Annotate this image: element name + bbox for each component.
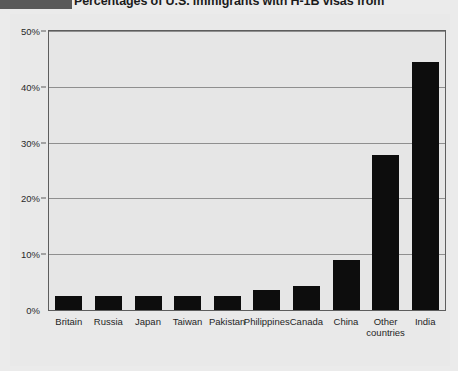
corner-artifact-block [0,0,72,9]
bar [412,62,439,310]
bars-layer [49,31,445,310]
bar [293,286,320,310]
y-axis-tick-30 [41,142,46,143]
y-axis-label-30: 30% [21,137,40,148]
y-axis: 0%10%20%30%40%50% [10,30,46,311]
bar [372,155,399,310]
y-axis-label-40: 40% [21,81,40,92]
bar [214,296,241,310]
y-axis-label-0: 0% [26,305,40,316]
y-axis-tick-40 [41,86,46,87]
bar [174,296,201,310]
x-axis-label: India [401,316,449,327]
y-axis-tick-50 [41,31,46,32]
y-axis-label-20: 20% [21,193,40,204]
page-title: Percentages of U.S. immigrants with H-1B… [74,0,458,9]
bar [135,296,162,310]
chart-card: 0%10%20%30%40%50% BritainRussiaJapanTaiw… [10,14,450,366]
bar [55,296,82,310]
y-axis-tick-20 [41,198,46,199]
chart-page: Percentages of U.S. immigrants with H-1B… [0,0,458,371]
x-axis: BritainRussiaJapanTaiwanPakistanPhilippi… [49,314,445,354]
y-axis-tick-10 [41,254,46,255]
y-axis-label-50: 50% [21,26,40,37]
bar [333,260,360,310]
chart-title-strip: Percentages of U.S. immigrants with H-1B… [74,0,458,9]
bar [253,290,280,310]
bar [95,296,122,310]
y-axis-label-10: 10% [21,249,40,260]
